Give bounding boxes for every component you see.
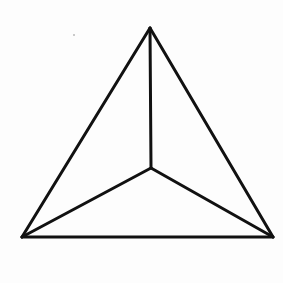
left-edge bbox=[22, 28, 150, 237]
speck-dot bbox=[73, 34, 75, 36]
right-inner-edge bbox=[151, 168, 273, 237]
vertical-edge bbox=[150, 28, 151, 168]
right-edge bbox=[150, 28, 273, 237]
tetrahedron-diagram bbox=[0, 0, 283, 283]
diagram-canvas bbox=[0, 0, 283, 283]
left-inner-edge bbox=[22, 168, 151, 237]
edges-group bbox=[22, 28, 273, 237]
